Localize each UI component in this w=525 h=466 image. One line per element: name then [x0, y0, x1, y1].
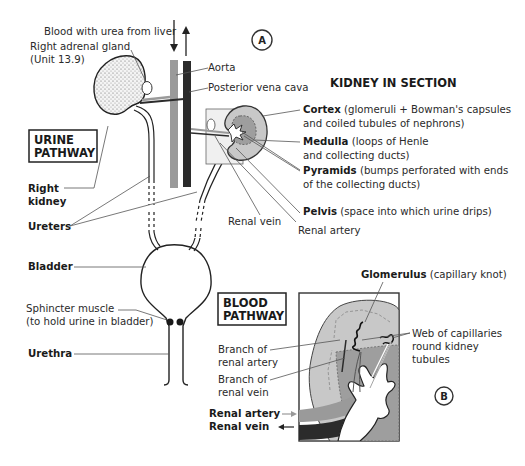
- svg-text:and coiled tubules of nephrons: and coiled tubules of nephrons): [303, 118, 465, 129]
- label-cortex: Cortex (glomeruli + Bowman's capsules: [303, 104, 511, 115]
- label-branch-renal-artery: Branch of: [218, 344, 267, 355]
- kidney-section-title: KIDNEY IN SECTION: [330, 76, 457, 90]
- blood-pathway-box: BLOOD PATHWAY: [218, 293, 286, 325]
- label-sphincter-2: (to hold urine in bladder): [26, 316, 154, 327]
- label-aorta: Aorta: [208, 62, 235, 73]
- adrenal-gland: [142, 82, 152, 95]
- svg-text:BLOOD: BLOOD: [223, 296, 268, 310]
- arrow-right-icon: [282, 411, 297, 417]
- marker-a: A: [252, 30, 272, 50]
- svg-text:PATHWAY: PATHWAY: [34, 146, 96, 160]
- label-adrenal-gland: Right adrenal gland: [30, 41, 130, 52]
- label-medulla: Medulla (loops of Henle: [303, 136, 429, 147]
- svg-text:A: A: [258, 35, 266, 46]
- label-web-of-capillaries: Web of capillaries: [412, 328, 502, 339]
- vena-cava: [170, 60, 178, 188]
- label-renal-vein-out: Renal vein: [209, 421, 269, 432]
- label-blood-from-liver: Blood with urea from liver: [44, 26, 177, 37]
- svg-text:round kidney: round kidney: [412, 341, 479, 352]
- kidney-section: [191, 106, 267, 164]
- urinary-system-diagram: A Blood with urea from liver Aorta Poste…: [0, 0, 525, 466]
- label-urethra: Urethra: [28, 348, 72, 359]
- sphincter-muscle: [167, 319, 174, 326]
- label-bladder: Bladder: [28, 261, 73, 272]
- label-renal-artery-in: Renal artery: [209, 408, 281, 419]
- urine-pathway-box: URINE PATHWAY: [29, 130, 97, 162]
- label-pyramids: Pyramids (bumps perforated with ends: [303, 165, 508, 176]
- label-glomerulus: Glomerulus (capillary knot): [361, 269, 507, 280]
- label-sphincter: Sphincter muscle: [26, 303, 114, 314]
- label-renal-artery: Renal artery: [298, 225, 361, 236]
- label-right-kidney-2: kidney: [28, 196, 67, 207]
- label-vena-cava: Posterior vena cava: [208, 82, 309, 93]
- svg-text:and collecting ducts): and collecting ducts): [303, 150, 410, 161]
- svg-text:B: B: [440, 391, 448, 402]
- marker-b: B: [435, 387, 453, 405]
- label-branch-renal-vein: Branch of: [218, 374, 267, 385]
- label-adrenal-ref: (Unit 13.9): [30, 54, 85, 65]
- svg-text:of the collecting ducts): of the collecting ducts): [303, 179, 420, 190]
- arrow-up-icon: [182, 26, 190, 56]
- arrow-left-icon: [278, 424, 294, 430]
- svg-text:renal vein: renal vein: [218, 387, 269, 398]
- label-right-kidney: Right: [28, 183, 59, 194]
- svg-text:renal artery: renal artery: [218, 357, 278, 368]
- label-renal-vein: Renal vein: [228, 216, 281, 227]
- label-ureters: Ureters: [28, 221, 71, 232]
- label-pelvis: Pelvis (space into which urine drips): [303, 206, 492, 217]
- svg-text:URINE: URINE: [34, 133, 74, 147]
- aorta: [183, 61, 191, 187]
- svg-text:PATHWAY: PATHWAY: [223, 309, 285, 323]
- svg-text:tubules: tubules: [412, 354, 450, 365]
